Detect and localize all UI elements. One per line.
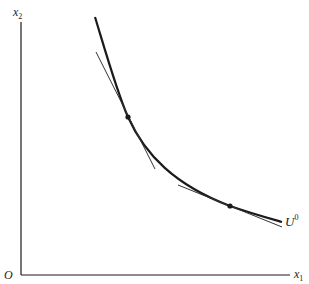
tangency-point-flat [227,203,232,208]
tangent-line-steep [96,52,155,169]
x-axis-label: x1 [293,267,303,283]
curve-label: U0 [285,213,298,229]
y-axis-label: x2 [12,5,22,21]
indifference-curve-diagram: x2 O x1 U0 [0,0,309,284]
tangency-point-steep [125,114,130,119]
indifference-curve [95,17,282,222]
origin-label: O [4,268,13,282]
